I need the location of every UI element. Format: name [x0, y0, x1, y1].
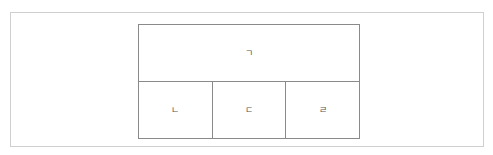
grid-cell: ㄴ: [139, 82, 213, 139]
grid-row-top: ㄱ: [139, 25, 360, 82]
cell-label: ㄷ: [245, 106, 253, 115]
cell-label: ㄱ: [245, 49, 253, 58]
cell-label: ㄴ: [171, 106, 179, 115]
grid-row-bottom: ㄴ ㄷ ㄹ: [139, 82, 360, 139]
cell-label: ㄹ: [319, 106, 327, 115]
grid-cell: ㄷ: [212, 82, 286, 139]
grid-cell: ㄹ: [286, 82, 360, 139]
grid-cell: ㄱ: [139, 25, 360, 82]
consonant-grid: ㄱ ㄴ ㄷ ㄹ: [138, 24, 360, 139]
